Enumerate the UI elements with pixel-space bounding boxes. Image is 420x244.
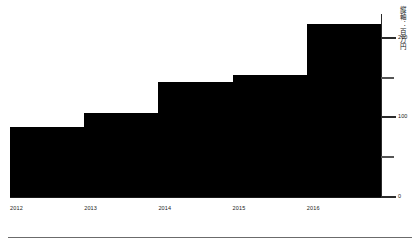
value-axis-spine bbox=[381, 14, 382, 197]
category-axis-baseline bbox=[10, 197, 381, 198]
tick-mark bbox=[381, 77, 394, 79]
category-axis: 20122013201420152016 bbox=[10, 198, 381, 212]
tick-label: 0 bbox=[398, 192, 401, 201]
bar-series bbox=[10, 14, 381, 197]
bar bbox=[10, 127, 85, 197]
bar bbox=[158, 82, 233, 197]
category-label: 2013 bbox=[84, 204, 97, 212]
chart-figure: 2001000 縦軸：百万円 20122013201420152016 bbox=[0, 0, 420, 244]
bar bbox=[307, 24, 381, 197]
tick-mark bbox=[381, 196, 396, 198]
tick-mark bbox=[381, 156, 394, 158]
category-label: 2015 bbox=[233, 204, 246, 212]
category-label: 2012 bbox=[10, 204, 23, 212]
footer-rule bbox=[8, 237, 412, 238]
bars-group bbox=[10, 24, 381, 197]
plot-area bbox=[10, 14, 381, 197]
value-axis-title: 縦軸：百万円 bbox=[396, 6, 408, 68]
bar bbox=[233, 75, 308, 197]
category-label: 2016 bbox=[307, 204, 320, 212]
bar bbox=[84, 113, 159, 197]
category-label: 2014 bbox=[158, 204, 171, 212]
tick-label: 100 bbox=[398, 112, 407, 121]
tick-mark bbox=[381, 37, 396, 39]
tick-mark bbox=[381, 116, 396, 118]
